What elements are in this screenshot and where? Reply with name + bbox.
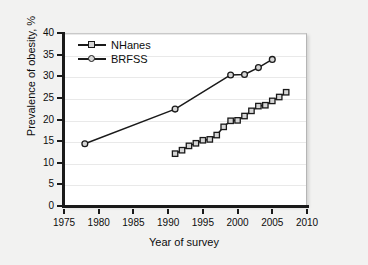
- square-marker-icon: [214, 132, 219, 137]
- square-marker-icon: [242, 113, 247, 118]
- circle-marker-icon: [88, 55, 95, 62]
- square-marker-icon: [270, 98, 275, 103]
- square-marker-icon: [193, 141, 198, 146]
- square-marker-icon: [207, 137, 212, 142]
- circle-marker-icon: [82, 141, 88, 147]
- square-marker-icon: [200, 138, 205, 143]
- square-marker-icon: [235, 118, 240, 123]
- square-marker-icon: [283, 90, 288, 95]
- circle-marker-icon: [256, 65, 262, 71]
- series-brfss: [82, 56, 275, 146]
- square-marker-icon: [179, 148, 184, 153]
- square-marker-icon: [277, 94, 282, 99]
- y-axis-label: Prevalence of obesity, %: [25, 1, 37, 151]
- square-marker-icon: [263, 103, 268, 108]
- square-marker-icon: [88, 41, 95, 48]
- square-marker-icon: [172, 151, 177, 156]
- square-marker-icon: [186, 143, 191, 148]
- square-marker-icon: [256, 103, 261, 108]
- legend-swatch-square: [78, 39, 106, 50]
- circle-marker-icon: [172, 106, 178, 112]
- square-marker-icon: [249, 108, 254, 113]
- legend-swatch-circle: [78, 53, 106, 64]
- circle-marker-icon: [228, 72, 234, 78]
- data-series-layer: [0, 0, 368, 265]
- square-marker-icon: [228, 118, 233, 123]
- legend-item-brfss: BRFSS: [78, 52, 151, 65]
- legend-label-nhanes: NHanes: [111, 39, 151, 51]
- x-axis-label: Year of survey: [0, 236, 368, 248]
- circle-marker-icon: [269, 56, 275, 62]
- legend-item-nhanes: NHanes: [78, 38, 151, 51]
- obesity-prevalence-chart: 0510152025303540197519801985199019952000…: [0, 0, 368, 265]
- circle-marker-icon: [242, 72, 248, 78]
- legend-label-brfss: BRFSS: [111, 53, 148, 65]
- chart-legend: NHanes BRFSS: [78, 38, 151, 66]
- square-marker-icon: [221, 124, 226, 129]
